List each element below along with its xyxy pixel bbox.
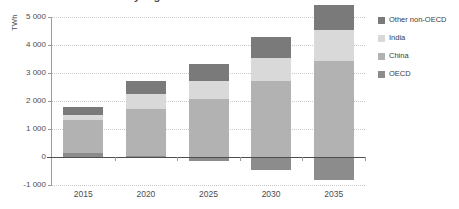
plot-area: 5 0004 0003 0002 0001 0000-1 000 2015202…: [52, 17, 365, 185]
bar-segment[interactable]: [63, 120, 103, 154]
legend-item[interactable]: Other non-OECD: [378, 11, 459, 29]
bar-segment[interactable]: [126, 109, 166, 157]
x-axis-label: 2020: [115, 189, 178, 199]
legend-swatch-icon: [378, 53, 385, 60]
legend-label: Other non-OECD: [389, 16, 447, 24]
bar-segment[interactable]: [63, 107, 103, 115]
x-axis-label: 2030: [240, 189, 303, 199]
bar-segment[interactable]: [314, 157, 354, 180]
y-tick-label: 2 000: [26, 97, 46, 105]
bar-segment[interactable]: [251, 37, 291, 57]
bar-segment[interactable]: [189, 64, 229, 81]
bar-group[interactable]: [126, 17, 166, 185]
legend-label: India: [389, 34, 405, 42]
x-tick-mark: [365, 157, 366, 161]
legend-swatch-icon: [378, 35, 385, 42]
bar-segment[interactable]: [189, 99, 229, 157]
bar-group[interactable]: [63, 17, 103, 185]
bar-group[interactable]: [189, 17, 229, 185]
bar-group[interactable]: [251, 17, 291, 185]
legend-swatch-icon: [378, 17, 385, 24]
y-tick-label: 3 000: [26, 69, 46, 77]
x-axis-label: 2015: [52, 189, 115, 199]
y-tick-label: 1 000: [26, 125, 46, 133]
x-tick-mark: [240, 157, 241, 161]
legend-label: China: [389, 52, 409, 60]
chart-title-cropped: e by region in the New Policies Scenario: [0, 0, 459, 9]
legend-item[interactable]: OECD: [378, 65, 459, 83]
bar-segment[interactable]: [63, 115, 103, 120]
y-tick-mark: [48, 101, 52, 102]
chart-figure: e by region in the New Policies Scenario…: [0, 0, 459, 209]
y-tick-mark: [48, 185, 52, 186]
legend-swatch-icon: [378, 71, 385, 78]
bar-segment[interactable]: [251, 58, 291, 81]
y-tick-label: -1 000: [23, 181, 46, 189]
y-tick-label: 5 000: [26, 13, 46, 21]
x-axis-label: 2025: [177, 189, 240, 199]
x-tick-mark: [302, 157, 303, 161]
bar-segment[interactable]: [314, 5, 354, 30]
y-tick-label: 0: [42, 153, 46, 161]
bar-segment[interactable]: [251, 157, 291, 170]
bar-segment[interactable]: [314, 61, 354, 157]
x-axis-label: 2035: [302, 189, 365, 199]
y-axis-label: TWh: [10, 3, 19, 43]
legend-item[interactable]: India: [378, 29, 459, 47]
y-tick-mark: [48, 129, 52, 130]
zero-line: [47, 157, 365, 158]
legend-label: OECD: [389, 70, 411, 78]
y-tick-mark: [48, 45, 52, 46]
bar-segment[interactable]: [251, 81, 291, 157]
y-tick-mark: [48, 17, 52, 18]
x-tick-mark: [115, 157, 116, 161]
chart-legend: Other non-OECDIndiaChinaOECD: [378, 11, 459, 83]
bar-segment[interactable]: [126, 94, 166, 109]
chart-title-text: e by region in the New Policies Scenario: [118, 0, 329, 2]
y-tick-label: 4 000: [26, 41, 46, 49]
legend-item[interactable]: China: [378, 47, 459, 65]
bar-segment[interactable]: [314, 30, 354, 61]
gridline: [52, 185, 365, 186]
y-tick-mark: [48, 73, 52, 74]
bar-segment[interactable]: [126, 81, 166, 94]
bar-segment[interactable]: [189, 81, 229, 98]
x-tick-mark: [177, 157, 178, 161]
bar-group[interactable]: [314, 17, 354, 185]
